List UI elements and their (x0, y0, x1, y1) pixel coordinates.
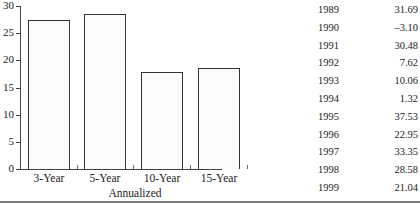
x-tick-label: 10-Year (137, 172, 187, 184)
table-row: 199828.58 (318, 162, 418, 178)
y-tick (16, 115, 21, 116)
bar-10-year (141, 72, 183, 169)
bar-chart: 051015202530 3-Year5-Year10-Year15-Year … (0, 0, 230, 205)
x-tick (77, 165, 78, 169)
table-row: 199130.48 (318, 38, 418, 54)
bar-3-year (28, 20, 70, 169)
table-row: 199921.04 (318, 180, 418, 196)
return-cell: 1.32 (400, 91, 418, 107)
return-cell: 37.53 (394, 109, 418, 125)
year-cell: 1993 (318, 73, 339, 89)
return-cell: 31.69 (394, 2, 418, 18)
y-tick (16, 33, 21, 34)
return-cell: 33.35 (394, 144, 418, 160)
y-tick-label: 20 (0, 54, 14, 65)
table-row: 19927.62 (318, 55, 418, 71)
return-cell: 7.62 (400, 55, 418, 71)
bar-5-year (84, 14, 126, 169)
return-cell: –3.10 (394, 20, 418, 36)
x-axis (20, 169, 222, 170)
table-row: 199622.95 (318, 127, 418, 143)
table-row: 1990–3.10 (318, 20, 418, 36)
y-tick-label: 0 (0, 163, 14, 174)
table-row: 199733.35 (318, 144, 418, 160)
x-tick (190, 165, 191, 169)
year-cell: 1996 (318, 127, 339, 143)
x-axis-title: Annualized (100, 187, 170, 199)
year-cell: 1994 (318, 91, 339, 107)
return-cell: 22.95 (394, 127, 418, 143)
y-tick-label: 10 (0, 109, 14, 120)
y-tick-label: 15 (0, 82, 14, 93)
year-cell: 1998 (318, 162, 339, 178)
bar-15-year (198, 68, 240, 169)
year-cell: 1992 (318, 55, 339, 71)
year-cell: 1990 (318, 20, 339, 36)
year-cell: 1997 (318, 144, 339, 160)
y-tick-label: 30 (0, 0, 14, 11)
x-tick-label: 3-Year (24, 172, 74, 184)
y-tick-label: 25 (0, 27, 14, 38)
y-tick (16, 142, 21, 143)
table-row: 199537.53 (318, 109, 418, 125)
y-tick (16, 60, 21, 61)
return-cell: 30.48 (394, 38, 418, 54)
year-cell: 1995 (318, 109, 339, 125)
table-row: 198931.69 (318, 2, 418, 18)
return-cell: 28.58 (394, 162, 418, 178)
year-cell: 1999 (318, 180, 339, 196)
x-tick-label: 5-Year (80, 172, 130, 184)
bottom-rule (0, 201, 420, 203)
return-cell: 21.04 (394, 180, 418, 196)
table-row: 199310.06 (318, 73, 418, 89)
y-tick (16, 6, 21, 7)
y-tick (16, 88, 21, 89)
x-tick (133, 165, 134, 169)
y-tick (16, 169, 21, 170)
y-tick-label: 5 (0, 136, 14, 147)
year-cell: 1991 (318, 38, 339, 54)
return-cell: 10.06 (394, 73, 418, 89)
table-row: 19941.32 (318, 91, 418, 107)
year-cell: 1989 (318, 2, 339, 18)
x-tick-label: 15-Year (194, 172, 244, 184)
x-tick (247, 165, 248, 169)
